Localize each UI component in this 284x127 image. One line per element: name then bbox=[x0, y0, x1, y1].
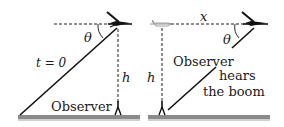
left-panel: θ t = 0 h Observer bbox=[18, 12, 140, 121]
right-ghost-airplane-icon bbox=[150, 20, 171, 26]
right-height-label: h bbox=[147, 70, 155, 85]
left-time-label: t = 0 bbox=[36, 56, 67, 70]
right-observer-icon bbox=[159, 101, 165, 115]
right-airplane-icon bbox=[242, 12, 268, 26]
right-ground-shadow bbox=[148, 119, 270, 121]
left-observer-icon bbox=[115, 101, 121, 115]
left-observer-label: Observer bbox=[51, 99, 113, 114]
right-angle-label: θ bbox=[223, 32, 231, 47]
left-angle-arc bbox=[98, 24, 103, 38]
right-distance-label: x bbox=[200, 9, 208, 24]
left-airplane-icon bbox=[107, 12, 132, 27]
right-angle-arc bbox=[235, 24, 239, 38]
right-panel: x θ h Observer hears the boom bbox=[147, 9, 270, 121]
right-event-label-line2: the boom bbox=[203, 84, 265, 99]
left-ground bbox=[18, 115, 140, 119]
right-event-label-line1: hears bbox=[219, 68, 256, 83]
left-height-label: h bbox=[122, 70, 130, 85]
right-ground bbox=[148, 115, 270, 119]
left-ground-shadow bbox=[18, 119, 140, 121]
left-angle-label: θ bbox=[84, 30, 92, 45]
sonic-boom-diagram: θ t = 0 h Observer bbox=[0, 0, 284, 127]
right-observer-label: Observer bbox=[173, 54, 235, 69]
